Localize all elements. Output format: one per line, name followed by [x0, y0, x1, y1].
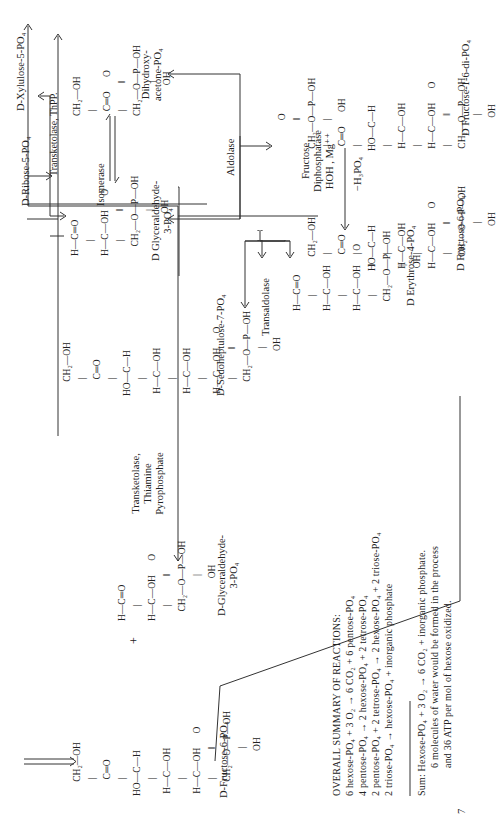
summary-line: 2 triose-PO₄ → hexose-PO₄ + inorganic ph… [382, 532, 395, 796]
summary-sum: Sum: Hexose-PO₄ + 3 O₂ → 6 CO₂ + inorgan… [415, 546, 454, 796]
transketolase-thpp-label: Transketolase, ThPP. [48, 92, 60, 176]
sedoheptulose-7-phosphate-label: D-Sedoheptulose-7-PO₄ [215, 294, 227, 396]
overall-summary: OVERALL SUMMARY OF REACTIONS: 6 hexose-P… [330, 532, 395, 796]
aldolase-label: Aldolase [225, 139, 237, 176]
transketolase-tpp-label: Transketolase, Thiamine Pyrophosphate [130, 436, 166, 531]
fructose-6-phosphate-left-structure: CH₂—OH | C═O | HO—C—H | H—C—OH | H—C—OH … [70, 711, 265, 796]
fructose-6-phosphate-right-label: D Fructose-6-PO₄ [455, 195, 467, 271]
summary-title: OVERALL SUMMARY OF REACTIONS: [330, 532, 343, 796]
dihydroxyacetone-phosphate-label: Dihydroxy- acetone-PO₄ [140, 48, 164, 101]
summary-line: 4 pentose-PO₄ → 2 hexose-PO₄ + 2 tetrose… [356, 532, 369, 796]
glyceraldehyde-3-phosphate-left-structure: H—C═O | H—C—OH O | ‖ CH₂—O—P—OH | OH [115, 541, 220, 621]
summary-line: 2 pentose-PO₄ + 2 tetrose-PO₄ → 2 hexose… [369, 532, 382, 796]
transaldolase-label: Transaldolase [260, 278, 272, 336]
ribose-5-phosphate-label: D-Ribose-5-PO₄ [20, 136, 32, 206]
glyceraldehyde-3-phosphate-left-label: D-Glyceraldehyde- 3-PO₄ [216, 535, 240, 616]
sedoheptulose-7-phosphate-structure: CH₂—OH | C═O | HO—C—H | H—C—OH | H—C—OH … [60, 311, 285, 396]
minus-h3po4-label: −H₃PO₄ [352, 157, 364, 191]
fructose-1-6-diphosphate-label: D Fructose-1-6-di-PO₄ [460, 40, 472, 136]
plus-sign: + [128, 637, 140, 644]
fructose-6-phosphate-left-label: D-Fructose-6-PO₄ [218, 721, 230, 798]
page-number: 7 [456, 809, 468, 814]
xylulose-5-phosphate-label: D-Xylulose-5-PO₄ [15, 33, 27, 111]
glyceraldehyde-3-phosphate-center-label: D Glyceraldehyde- 3-PO₄ [150, 181, 174, 261]
summary-line: 6 hexose-PO₄ + 3 O₂ → 6 CO₂ + 6 pentose-… [343, 532, 356, 796]
isomerase-label: Isomerase [95, 163, 107, 206]
